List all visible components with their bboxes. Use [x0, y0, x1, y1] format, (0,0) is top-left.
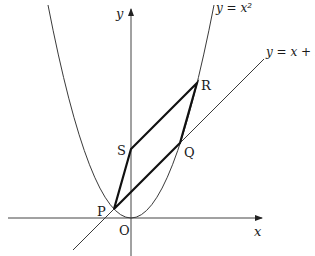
origin-label: O [119, 223, 130, 238]
parabola-label: y = x² [215, 1, 252, 15]
point-q-label: Q [184, 145, 195, 160]
diagram-canvas: y x O y = x² y = x + k P Q R S [0, 0, 315, 256]
y-axis-label: y [115, 6, 124, 21]
line-label: y = x + k [265, 45, 315, 59]
math-diagram: y x O y = x² y = x + k P Q R S [0, 0, 315, 256]
point-r-label: R [201, 78, 212, 93]
point-p-label: P [97, 204, 106, 219]
x-axis-label: x [254, 224, 262, 239]
point-s-label: S [117, 143, 126, 158]
